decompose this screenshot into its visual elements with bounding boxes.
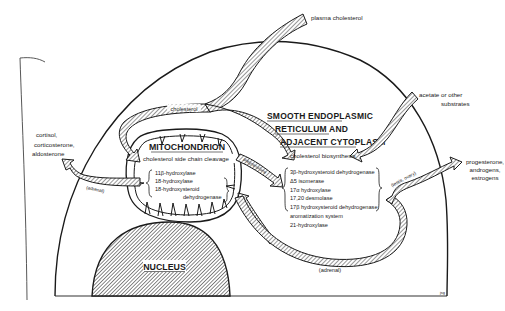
mito-enzyme-3: 18-hydroxysteroid [155, 186, 199, 192]
acetate-label-line-1: acetate or other [419, 91, 462, 98]
er-enzyme-1: 3β-hydroxysteroid dehydrogenase [290, 169, 375, 175]
adrenal-left-label: (adrenal) [86, 185, 105, 194]
artist-signature: jsg [439, 291, 445, 295]
er-enzyme-5: 17β hydroxysteroid dehydrogenase [290, 204, 378, 210]
acetate-label-line-2: substrates [441, 100, 470, 107]
adrenal-product-1: cortisol, [36, 131, 58, 138]
adrenal-product-3: aldosterone [32, 150, 65, 157]
er-title-line-1: SMOOTH ENDOPLASMIC [267, 111, 373, 121]
mito-enzyme-4: dehydrogenase [183, 194, 222, 200]
page-edge-left [20, 58, 45, 300]
mitochondrion-label: MITOCHONDRION [149, 142, 225, 152]
adrenal-product-2: corticosterone, [34, 141, 75, 148]
plasma-cholesterol-arrow [205, 14, 307, 112]
acetate-arrow [350, 92, 418, 162]
mitochondrion-process: cholesterol side chain cleavage [143, 155, 230, 162]
gonadal-product-3: estrogens [471, 174, 498, 181]
nucleus-label: NUCLEUS [143, 262, 186, 272]
er-enzyme-7: 21-hydroxylase [290, 222, 328, 228]
steroid-biosynthesis-diagram: NUCLEUS MITOCHONDRION cholesterol side c… [0, 0, 505, 311]
adrenal-bottom-label: (adrenal) [319, 267, 342, 273]
er-process-label: cholesterol biosynthesis [290, 152, 356, 159]
er-enzyme-2: Δ5 isomerase [290, 178, 324, 184]
er-enzyme-4: 17,20 desmolase [290, 195, 333, 201]
nucleus [92, 222, 230, 296]
mito-enzyme-1: 11β-hydroxylase [155, 170, 196, 176]
er-enzyme-6: aromatization system [290, 213, 343, 219]
er-enzyme-3: 17α hydroxylase [290, 187, 331, 193]
cholesterol-label: cholesterol [170, 106, 197, 112]
mito-enzyme-2: 18-hydroxylase [155, 178, 193, 184]
gonadal-product-2: androgens, [470, 166, 501, 173]
pregnenolone-label: pregnenolone [242, 157, 267, 175]
er-title-line-3: ADJACENT CYTOPLASM [280, 137, 385, 147]
plasma-cholesterol-label: plasma cholesterol [311, 14, 363, 21]
er-title-line-2: RETICULUM AND [275, 124, 348, 134]
gonadal-product-1: progesterone, [466, 158, 504, 165]
